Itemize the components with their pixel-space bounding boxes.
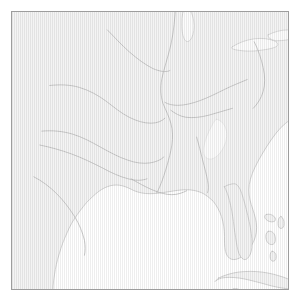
map-figure [0, 0, 301, 302]
bahamas-island-4 [270, 251, 276, 261]
bahamas-island-2 [278, 217, 284, 229]
map-frame-border [11, 11, 289, 290]
map-canvas [12, 12, 288, 289]
bahamas-island-3 [266, 231, 276, 244]
lake-michigan-southern-tip [182, 12, 194, 42]
